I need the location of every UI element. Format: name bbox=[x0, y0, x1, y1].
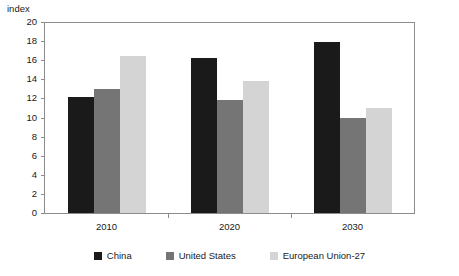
y-axis-tick-label: 8 bbox=[32, 131, 37, 142]
x-axis-category-label: 2030 bbox=[291, 221, 414, 232]
y-axis-tick-label: 10 bbox=[26, 112, 37, 123]
x-axis: 201020202030 bbox=[45, 214, 414, 238]
bar bbox=[243, 81, 269, 213]
legend-label: European Union-27 bbox=[283, 250, 365, 261]
y-axis-tick-label: 20 bbox=[26, 16, 37, 27]
x-axis-tick-mark bbox=[291, 214, 292, 218]
y-axis-unit-label: index bbox=[7, 3, 30, 14]
bar bbox=[191, 58, 217, 213]
bar-chart: index 20181614121086420 201020202030 Chi… bbox=[0, 0, 459, 276]
bar-group bbox=[191, 23, 269, 213]
y-axis: 20181614121086420 bbox=[0, 22, 45, 214]
legend: ChinaUnited StatesEuropean Union-27 bbox=[0, 250, 459, 261]
bars-layer bbox=[45, 23, 414, 213]
x-axis-tick-mark bbox=[168, 214, 169, 218]
bar bbox=[217, 100, 243, 213]
bar bbox=[314, 42, 340, 213]
legend-label: China bbox=[107, 250, 132, 261]
bar-group bbox=[314, 23, 392, 213]
y-axis-tick-label: 16 bbox=[26, 54, 37, 65]
y-axis-tick-label: 12 bbox=[26, 92, 37, 103]
y-axis-tick-label: 18 bbox=[26, 35, 37, 46]
legend-item[interactable]: United States bbox=[166, 250, 236, 261]
bar-group bbox=[68, 23, 146, 213]
bar bbox=[94, 89, 120, 213]
legend-swatch-icon bbox=[166, 252, 174, 260]
bar bbox=[340, 118, 366, 213]
legend-item[interactable]: China bbox=[94, 250, 132, 261]
legend-swatch-icon bbox=[94, 252, 102, 260]
y-axis-tick-label: 6 bbox=[32, 150, 37, 161]
legend-swatch-icon bbox=[270, 252, 278, 260]
legend-item[interactable]: European Union-27 bbox=[270, 250, 365, 261]
bar bbox=[68, 97, 94, 213]
bar bbox=[366, 108, 392, 213]
bar bbox=[120, 56, 146, 213]
y-axis-tick-label: 2 bbox=[32, 188, 37, 199]
y-axis-tick-label: 14 bbox=[26, 73, 37, 84]
y-axis-tick-label: 4 bbox=[32, 169, 37, 180]
x-axis-category-label: 2020 bbox=[168, 221, 291, 232]
legend-label: United States bbox=[179, 250, 236, 261]
x-axis-category-label: 2010 bbox=[45, 221, 168, 232]
y-axis-tick-label: 0 bbox=[32, 207, 37, 218]
